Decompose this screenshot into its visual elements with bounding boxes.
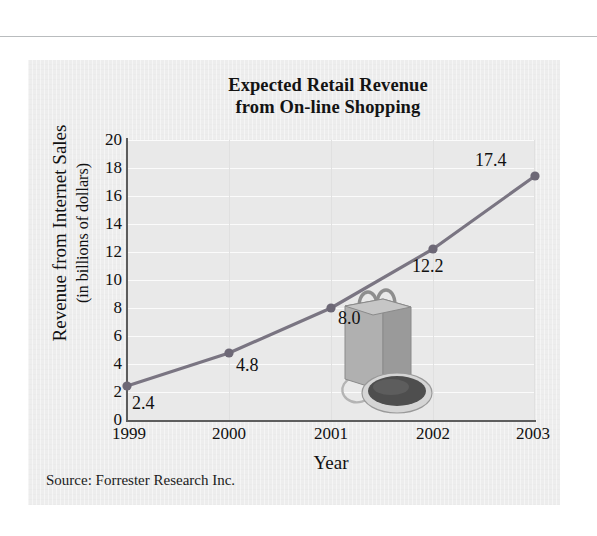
y-tick-14: 14: [88, 214, 122, 234]
chart-title: Expected Retail Revenue from On-line Sho…: [108, 74, 548, 118]
data-label-1999: 2.4: [132, 393, 155, 414]
gridline-v-2003: [534, 140, 535, 420]
y-tick-18: 18: [88, 158, 122, 178]
y-tick-12: 12: [88, 242, 122, 262]
x-axis-tick-labels: 1999 2000 2001 2002 2003: [127, 424, 535, 450]
y-tick-10: 10: [88, 270, 122, 290]
x-axis-title: Year: [127, 452, 535, 474]
y-tick-6: 6: [88, 326, 122, 346]
x-tick-1999: 1999: [89, 424, 169, 444]
data-label-2003: 17.4: [475, 150, 507, 171]
chart-title-line-2: from On-line Shopping: [108, 96, 548, 118]
x-tick-2000: 2000: [189, 424, 269, 444]
y-tick-4: 4: [88, 354, 122, 374]
y-axis-line: [126, 138, 128, 422]
figure-panel: Expected Retail Revenue from On-line Sho…: [28, 60, 560, 505]
shopping-bag-and-mouse-illustration: [325, 279, 455, 419]
y-tick-8: 8: [88, 298, 122, 318]
page-divider-rule: [0, 36, 597, 37]
y-tick-16: 16: [88, 186, 122, 206]
data-label-2001: 8.0: [338, 308, 361, 329]
y-axis-tick-labels: 20 18 16 14 12 10 8 6 4 2 0: [80, 140, 122, 420]
data-label-2002: 12.2: [412, 256, 444, 277]
y-tick-20: 20: [88, 130, 122, 150]
source-note: Source: Forrester Research Inc.: [46, 472, 235, 489]
y-axis-title-main: Revenue from Internet Sales: [49, 125, 70, 342]
gridline-v-2000: [229, 140, 230, 420]
data-label-2000: 4.8: [236, 355, 259, 376]
chart-title-line-1: Expected Retail Revenue: [108, 74, 548, 96]
x-tick-2001: 2001: [291, 424, 371, 444]
x-tick-2003: 2003: [493, 424, 573, 444]
x-axis-line: [126, 420, 536, 422]
x-tick-2002: 2002: [393, 424, 473, 444]
y-tick-2: 2: [88, 382, 122, 402]
